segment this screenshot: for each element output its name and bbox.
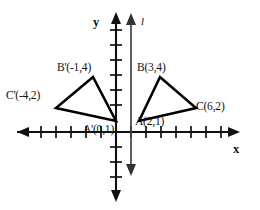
- y-axis-group: [110, 12, 122, 202]
- y-axis-bottom-arrow-icon: [111, 190, 121, 202]
- vertex-label-b: B(3,4): [137, 61, 166, 74]
- x-axis-label: x: [233, 142, 240, 156]
- mirror-line-top-arrow-icon: [126, 13, 136, 25]
- vertex-label-a: A(2,1): [135, 115, 165, 128]
- coordinate-plane-diagram: A(2,1) B(3,4) C(6,2) A'(0,1) B'(-1,4) C'…: [0, 0, 260, 210]
- vertex-label-a-prime: A'(0,1): [83, 123, 114, 136]
- vertex-label-c-prime: C'(-4,2): [6, 89, 40, 102]
- triangle-a-prime-b-prime-c-prime: [56, 77, 116, 121]
- y-axis-label: y: [93, 15, 100, 29]
- mirror-line-bottom-arrow-icon: [126, 164, 136, 176]
- vertex-label-b-prime: B'(-1,4): [57, 61, 91, 74]
- vertex-label-c: C(6,2): [196, 100, 225, 113]
- y-axis-top-arrow-icon: [111, 12, 121, 24]
- x-axis-right-arrow-icon: [228, 127, 240, 137]
- x-axis-group: [17, 126, 240, 138]
- mirror-line-label: l: [141, 15, 144, 27]
- x-axis-left-arrow-icon: [17, 127, 29, 137]
- mirror-line-group: [126, 13, 136, 176]
- reflection-figure: A(2,1) B(3,4) C(6,2) A'(0,1) B'(-1,4) C'…: [0, 0, 260, 210]
